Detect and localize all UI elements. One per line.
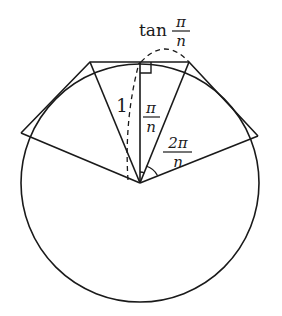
line-center-to-right-vertex bbox=[140, 136, 258, 183]
half-angle-denominator: n bbox=[146, 118, 156, 136]
tan-label-denominator: n bbox=[176, 32, 186, 50]
radius-dashed-brace bbox=[127, 63, 139, 180]
full-angle-denominator: n bbox=[173, 153, 183, 171]
full-angle-numerator: 2π bbox=[167, 134, 189, 152]
full-angle-arc bbox=[146, 166, 158, 176]
half-angle-numerator: π bbox=[145, 99, 157, 117]
tan-label-prefix: tan bbox=[139, 20, 167, 40]
ngon-diagram: tan π n 1 π n 2π n bbox=[0, 0, 282, 316]
radius-label: 1 bbox=[116, 95, 127, 116]
tan-label-numerator: π bbox=[175, 13, 187, 31]
tan-dashed-arc bbox=[141, 49, 189, 62]
